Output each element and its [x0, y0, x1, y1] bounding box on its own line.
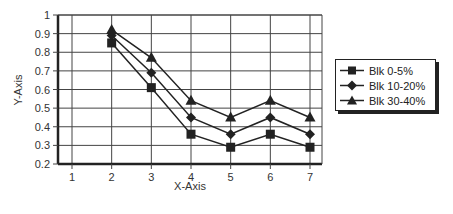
legend-label: Blk 0-5% [369, 65, 413, 77]
y-tick-label: 0.2 [35, 158, 50, 170]
triangle-marker-icon [106, 24, 117, 34]
x-tick-label: 7 [307, 171, 313, 183]
y-tick-label: 0.5 [35, 102, 50, 114]
diamond-marker-icon [305, 129, 315, 139]
y-tick-label: 0.6 [35, 84, 50, 96]
y-axis-title: Y-Axis [12, 74, 24, 105]
legend-label: Blk 10-20% [369, 80, 425, 92]
x-tick-label: 1 [69, 171, 75, 183]
data-series [106, 24, 315, 152]
x-tick-label: 6 [267, 171, 273, 183]
series-line [112, 30, 310, 118]
legend-item-blk-30-40: Blk 30-40% [340, 93, 425, 108]
chart-legend: Blk 0-5% Blk 10-20% Blk 30-40% [335, 59, 436, 111]
triangle-marker-icon [265, 95, 276, 105]
y-tick-label: 0.7 [35, 65, 50, 77]
y-tick-label: 0.3 [35, 139, 50, 151]
diamond-marker-icon [340, 78, 364, 93]
square-marker-icon [187, 130, 196, 139]
y-tick-label: 0.4 [35, 121, 50, 133]
square-marker-icon [340, 63, 364, 78]
legend-item-blk-10-20: Blk 10-20% [340, 78, 425, 93]
x-tick-label: 2 [109, 171, 115, 183]
y-tick-label: 1 [44, 9, 50, 21]
y-axis-ticks: 0.20.30.40.50.60.70.80.91 [35, 9, 58, 170]
square-marker-icon [226, 143, 235, 152]
triangle-marker-icon [340, 93, 364, 108]
triangle-marker-icon [146, 52, 157, 62]
x-axis-title: X-Axis [174, 180, 206, 192]
y-tick-label: 0.9 [35, 28, 50, 40]
legend-item-blk-0-5: Blk 0-5% [340, 63, 413, 78]
legend-label: Blk 30-40% [369, 95, 425, 107]
x-tick-label: 3 [148, 171, 154, 183]
diamond-marker-icon [226, 129, 236, 139]
square-marker-icon [306, 143, 315, 152]
series-line [112, 43, 310, 147]
y-tick-label: 0.8 [35, 46, 50, 58]
square-marker-icon [147, 83, 156, 92]
grid-lines [58, 15, 322, 164]
square-marker-icon [266, 130, 275, 139]
diamond-marker-icon [265, 112, 275, 122]
x-tick-label: 5 [228, 171, 234, 183]
